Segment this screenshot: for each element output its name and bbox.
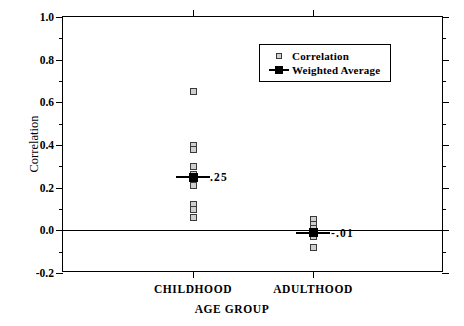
x-tick-childhood bbox=[193, 271, 194, 278]
y-tick-minor-0.5 bbox=[59, 124, 63, 125]
y-tick-major--0.2 bbox=[56, 273, 63, 274]
correlation-by-age-group-chart: Correlation 1.0 0.8 0.6 0.4 0.2 0.0 -0.2 bbox=[0, 0, 464, 326]
legend-item-correlation: Correlation bbox=[266, 49, 380, 63]
y-tick-right-1.0 bbox=[442, 17, 449, 18]
data-point-correlation bbox=[190, 146, 197, 153]
y-tick-minor-0.7 bbox=[59, 81, 63, 82]
y-tick-major-0.2 bbox=[56, 188, 63, 189]
chart-legend: Correlation Weighted Average bbox=[259, 44, 391, 82]
y-tick-major-1.0 bbox=[56, 17, 63, 18]
y-tick-right-0.8 bbox=[442, 60, 449, 61]
y-tick-right-0.7 bbox=[442, 81, 446, 82]
x-tick-top-adulthood bbox=[313, 10, 314, 17]
y-tick-right-0.9 bbox=[442, 38, 446, 39]
data-point-correlation bbox=[190, 88, 197, 95]
data-point-correlation bbox=[190, 163, 197, 170]
y-tick-right--0.1 bbox=[442, 252, 446, 253]
y-tick-minor-0.1 bbox=[59, 209, 63, 210]
y-tick-minor--0.1 bbox=[59, 252, 63, 253]
weighted-average-label-childhood: .25 bbox=[210, 171, 228, 183]
y-tick-label-0.0: 0.0 bbox=[40, 224, 54, 236]
y-tick-major-0.4 bbox=[56, 145, 63, 146]
y-tick-right--0.2 bbox=[442, 273, 449, 274]
weighted-average-marker-childhood bbox=[189, 173, 198, 182]
legend-label-weighted-average: Weighted Average bbox=[292, 64, 380, 76]
y-tick-label-0.4: 0.4 bbox=[40, 139, 54, 151]
x-tick-adulthood bbox=[313, 271, 314, 278]
y-tick-label-0.6: 0.6 bbox=[40, 96, 54, 108]
y-tick-major-0.0 bbox=[56, 230, 63, 231]
filled-square-line-icon bbox=[266, 64, 292, 76]
y-tick-minor-0.3 bbox=[59, 166, 63, 167]
data-point-correlation bbox=[190, 214, 197, 221]
data-point-correlation bbox=[190, 182, 197, 189]
y-tick-major-0.8 bbox=[56, 60, 63, 61]
y-tick-right-0.0 bbox=[442, 230, 449, 231]
y-tick-label-0.2: 0.2 bbox=[40, 182, 54, 194]
y-tick-right-0.3 bbox=[442, 166, 446, 167]
y-tick-right-0.1 bbox=[442, 209, 446, 210]
y-tick-label-0.8: 0.8 bbox=[40, 54, 54, 66]
weighted-average-marker-adulthood bbox=[309, 228, 318, 237]
y-tick-minor-0.9 bbox=[59, 38, 63, 39]
data-point-correlation bbox=[310, 244, 317, 251]
y-tick-right-0.5 bbox=[442, 124, 446, 125]
open-square-icon bbox=[266, 50, 292, 62]
x-axis-title: AGE GROUP bbox=[0, 303, 464, 315]
data-point-correlation bbox=[190, 206, 197, 213]
y-tick-label-1.0: 1.0 bbox=[40, 11, 54, 23]
y-tick-label--0.2: -0.2 bbox=[36, 267, 54, 279]
y-tick-right-0.6 bbox=[442, 102, 449, 103]
zero-baseline bbox=[63, 230, 442, 231]
legend-label-correlation: Correlation bbox=[292, 50, 349, 62]
legend-item-weighted-average: Weighted Average bbox=[266, 63, 380, 77]
x-tick-label-childhood: CHILDHOOD bbox=[154, 283, 232, 295]
weighted-average-label-adulthood: -.01 bbox=[331, 227, 354, 239]
x-tick-label-adulthood: ADULTHOOD bbox=[273, 283, 353, 295]
x-tick-top-childhood bbox=[193, 10, 194, 17]
y-tick-major-0.6 bbox=[56, 102, 63, 103]
y-tick-right-0.4 bbox=[442, 145, 449, 146]
y-tick-right-0.2 bbox=[442, 188, 449, 189]
